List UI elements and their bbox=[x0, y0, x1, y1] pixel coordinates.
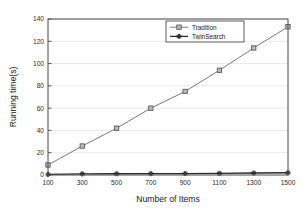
chart-figure: 100300500700900110013001500 020406080100… bbox=[0, 0, 308, 210]
legend-label-tradition: Tradition bbox=[192, 24, 217, 31]
data-point-marker bbox=[252, 46, 256, 50]
x-tick-label: 1100 bbox=[212, 179, 227, 186]
legend-label-twinsearch: TwinSearch bbox=[192, 33, 226, 40]
line-chart-canvas: 100300500700900110013001500 020406080100… bbox=[0, 0, 308, 210]
y-tick-label: 60 bbox=[37, 105, 45, 112]
y-axis-ticks: 020406080100120140 bbox=[33, 15, 52, 178]
y-tick-label: 40 bbox=[37, 127, 45, 134]
x-tick-label: 100 bbox=[42, 179, 53, 186]
x-tick-label: 1300 bbox=[246, 179, 261, 186]
data-point-marker bbox=[217, 68, 221, 72]
chart-legend: TraditionTwinSearch bbox=[166, 21, 244, 42]
data-point-marker bbox=[80, 144, 84, 148]
x-axis-title: Number of Items bbox=[136, 194, 200, 204]
y-tick-label: 20 bbox=[37, 149, 45, 156]
data-point-marker bbox=[183, 89, 187, 93]
x-tick-label: 500 bbox=[111, 179, 122, 186]
y-tick-label: 100 bbox=[33, 60, 44, 67]
x-tick-label: 1500 bbox=[281, 179, 296, 186]
y-tick-label: 120 bbox=[33, 38, 44, 45]
x-tick-label: 300 bbox=[77, 179, 88, 186]
x-tick-label: 900 bbox=[180, 179, 191, 186]
y-axis-title: Running time(s) bbox=[8, 67, 18, 128]
x-tick-label: 700 bbox=[145, 179, 156, 186]
y-tick-label: 80 bbox=[37, 82, 45, 89]
y-tick-label: 0 bbox=[40, 171, 44, 178]
y-tick-label: 140 bbox=[33, 15, 44, 22]
data-point-marker bbox=[149, 106, 153, 110]
data-series-group bbox=[45, 25, 290, 177]
data-point-marker bbox=[114, 126, 118, 130]
legend-sample-marker bbox=[177, 25, 181, 29]
